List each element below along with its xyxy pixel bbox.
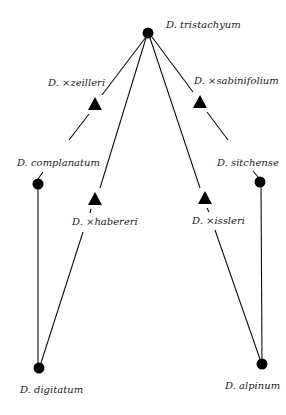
edge-sabinifolium-sitchense <box>207 112 228 140</box>
node-sitchense-icon <box>255 177 266 188</box>
edge-zeilleri-complanatum <box>69 114 89 140</box>
node-complanatum-icon <box>33 179 44 190</box>
leader-issleri <box>207 208 209 212</box>
label-complanatum: D. complanatum <box>16 157 100 168</box>
node-habereri-icon <box>88 192 102 205</box>
label-sitchense: D. sitchense <box>216 157 279 168</box>
node-tristachyum-icon <box>143 28 154 39</box>
hybrid-diagram: D. tristachyum D. ×zeilleri D. ×sabinifo… <box>0 0 286 415</box>
label-habereri: D. ×habereri <box>71 216 138 227</box>
node-alpinum-icon <box>257 359 268 370</box>
node-sabinifolium-icon <box>193 95 207 108</box>
edge-tristachyum-zeilleri <box>102 37 146 95</box>
label-digitatum: D. digitatum <box>19 384 83 395</box>
node-digitatum-icon <box>34 363 45 374</box>
leader-complanatum <box>38 172 43 179</box>
leader-sitchense <box>253 171 258 177</box>
leader-habereri <box>90 209 91 213</box>
label-sabinifolium: D. ×sabinifolium <box>193 75 279 86</box>
label-zeilleri: D. ×zeilleri <box>47 77 105 88</box>
node-issleri-icon <box>198 191 212 204</box>
edge-issleri-alpinum <box>215 230 261 362</box>
label-tristachyum: D. tristachyum <box>165 19 241 30</box>
edge-tristachyum-habereri <box>100 38 146 188</box>
label-alpinum: D. alpinum <box>224 380 280 391</box>
edge-tristachyum-sabinifolium <box>152 37 193 92</box>
edge-tristachyum-issleri <box>150 38 200 188</box>
label-issleri: D. ×issleri <box>191 215 245 226</box>
edge-habereri-digitatum <box>40 232 83 366</box>
edge-sitchense-alpinum <box>261 182 262 362</box>
node-zeilleri-icon <box>88 97 102 110</box>
